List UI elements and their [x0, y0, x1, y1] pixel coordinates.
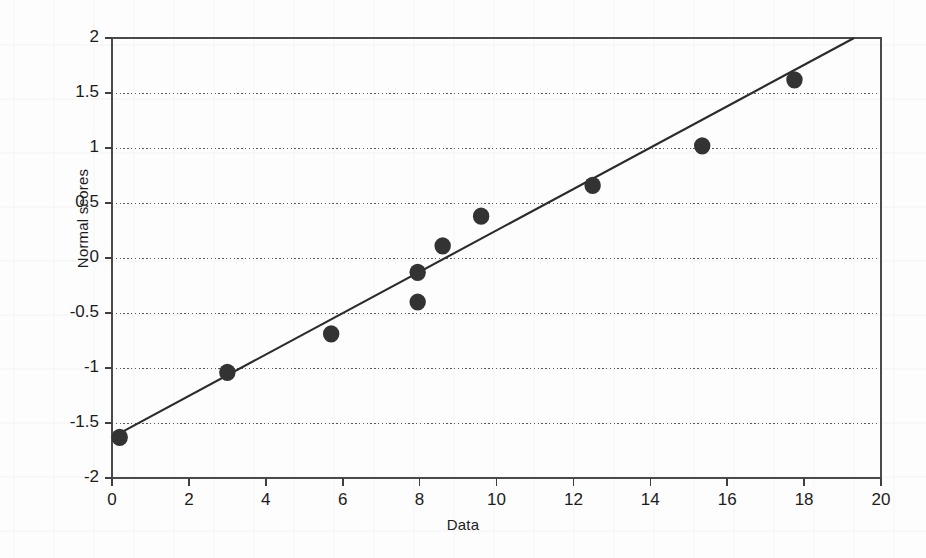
data-point-marker [584, 177, 600, 194]
x-tick-label: 10 [467, 490, 527, 510]
y-tick-label: 0.5 [39, 192, 99, 212]
x-tick-label: 8 [390, 490, 450, 510]
x-tick-label: 14 [620, 490, 680, 510]
x-tick-label: 18 [774, 490, 834, 510]
tick-mark-group [105, 38, 881, 486]
x-tick-label: 12 [543, 490, 603, 510]
normal-probability-plot [0, 0, 926, 558]
data-point-marker [473, 208, 489, 225]
x-tick-label: 2 [159, 490, 219, 510]
x-tick-label: 6 [313, 490, 373, 510]
data-point-marker [409, 293, 425, 310]
data-point-marker [434, 237, 450, 254]
data-point-marker [786, 71, 802, 88]
x-tick-label: 0 [82, 490, 142, 510]
data-point-marker [219, 364, 235, 381]
x-tick-label: 20 [851, 490, 911, 510]
data-point-group [111, 71, 802, 446]
y-tick-label: 1.5 [39, 82, 99, 102]
x-tick-label: 16 [697, 490, 757, 510]
data-point-marker [409, 264, 425, 281]
data-point-marker [694, 137, 710, 154]
x-axis-title: Data [0, 516, 926, 533]
data-point-marker [323, 325, 339, 342]
y-tick-label: -1.5 [39, 412, 99, 432]
y-tick-label: -0.5 [39, 302, 99, 322]
y-tick-label: -2 [39, 467, 99, 487]
data-point-marker [111, 429, 127, 446]
y-tick-label: 0 [39, 247, 99, 267]
x-tick-label: 4 [236, 490, 296, 510]
chart-page: Normal scores Data 21.510.50-0.5-1-1.5-2… [0, 0, 926, 558]
y-tick-label: 1 [39, 137, 99, 157]
y-tick-label: -1 [39, 357, 99, 377]
y-tick-label: 2 [39, 27, 99, 47]
